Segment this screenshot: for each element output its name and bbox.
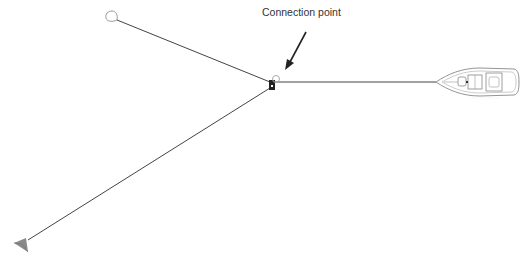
buoy-line [117, 20, 270, 82]
anchor-icon [14, 238, 28, 252]
connection-point-label: Connection point [262, 6, 341, 18]
anchor-line [28, 88, 270, 240]
connection-point-icon [269, 76, 280, 91]
boat-icon [436, 68, 519, 98]
mooring-diagram [0, 0, 521, 263]
buoy-icon [106, 11, 117, 21]
arrow-icon [285, 32, 306, 70]
